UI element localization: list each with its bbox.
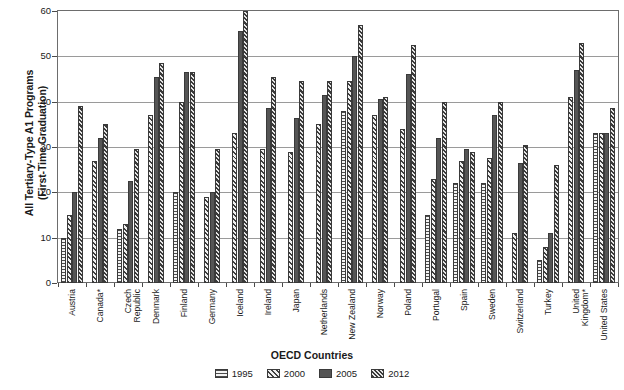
x-axis-tick-mark: [170, 283, 171, 287]
x-axis-category-label: Turkey: [544, 289, 553, 375]
x-axis-category-label: Spain: [460, 289, 469, 375]
bar-2012: [299, 81, 304, 283]
bar-2012: [498, 102, 503, 283]
bar-2000: [543, 247, 548, 283]
bar-2005: [210, 192, 215, 283]
x-axis-tick-mark: [366, 283, 367, 287]
bar-2005: [98, 138, 103, 283]
bar-2000: [512, 233, 517, 283]
y-axis-tick-label: 60: [11, 5, 51, 16]
bar-2005: [518, 163, 523, 283]
x-axis-tick-mark: [478, 283, 479, 287]
x-axis-tick-mark: [142, 283, 143, 287]
bar-2012: [470, 152, 475, 283]
bar-2005: [154, 77, 159, 283]
bar-2005: [322, 95, 327, 283]
y-axis-tick-label: 40: [11, 96, 51, 107]
x-axis-tick-mark: [226, 283, 227, 287]
x-axis-category-label: Finland: [180, 289, 189, 375]
y-axis-tick-label: 0: [11, 277, 51, 288]
bar-1995: [453, 183, 458, 283]
x-axis-category-label: Iceland: [236, 289, 245, 375]
bar-2000: [179, 102, 184, 283]
bar-group: [226, 11, 254, 283]
bar-2005: [548, 233, 553, 283]
y-axis-tick-mark: [52, 238, 57, 239]
x-axis-category-label: Poland: [404, 289, 413, 375]
bar-2012: [442, 102, 447, 283]
bar-2012: [411, 45, 416, 283]
bar-group: [450, 11, 478, 283]
bar-group: [422, 11, 450, 283]
bar-group: [310, 11, 338, 283]
bar-2005: [128, 181, 133, 283]
bar-2005: [378, 99, 383, 283]
bar-chart-figure: All Tertiary-Type A1 Programs (First-Tim…: [0, 0, 624, 390]
legend-label: 1995: [232, 368, 253, 379]
bar-2005: [406, 74, 411, 283]
bar-2005: [492, 115, 497, 283]
bar-2005: [464, 149, 469, 283]
x-axis-category-label: Japan: [292, 289, 301, 375]
bar-1995: [117, 229, 122, 283]
bar-2012: [190, 72, 195, 283]
y-axis-tick-mark: [52, 11, 57, 12]
bar-2012: [523, 145, 528, 283]
x-axis-title: OECD Countries: [0, 349, 624, 361]
bar-2005: [72, 192, 77, 283]
x-axis-tick-mark: [590, 283, 591, 287]
bar-2000: [431, 179, 436, 283]
bar-group: [562, 11, 590, 283]
x-axis-category-label: Czech Republic: [124, 289, 143, 375]
bar-2005: [574, 70, 579, 283]
bar-2000: [67, 215, 72, 283]
y-axis-tick-mark: [52, 147, 57, 148]
x-axis-category-label: United States: [600, 289, 609, 375]
bar-2000: [288, 152, 293, 283]
legend-item-2005: 2005: [319, 368, 357, 379]
x-axis-tick-mark: [254, 283, 255, 287]
y-axis-tick-mark: [52, 192, 57, 193]
bar-2000: [204, 197, 209, 283]
x-axis-category-label: Norway: [376, 289, 385, 375]
y-axis-tick-mark: [52, 56, 57, 57]
bar-2012: [271, 77, 276, 283]
x-axis-category-label: Portugal: [432, 289, 441, 375]
x-axis-tick-mark: [422, 283, 423, 287]
bar-group: [254, 11, 282, 283]
bar-2012: [78, 106, 83, 283]
x-axis-tick-mark: [450, 283, 451, 287]
x-axis-category-label: Netherlands: [320, 289, 329, 375]
bar-2012: [579, 43, 584, 283]
x-axis-tick-mark: [562, 283, 563, 287]
legend-item-2012: 2012: [371, 368, 409, 379]
bar-group: [394, 11, 422, 283]
x-axis-category-label: Canada*: [96, 289, 105, 375]
bar-2012: [159, 63, 164, 283]
bar-1995: [593, 133, 598, 283]
bar-group: [114, 11, 142, 283]
bar-2005: [238, 31, 243, 283]
bar-2000: [487, 158, 492, 283]
bar-2000: [148, 115, 153, 283]
x-axis-tick-mark: [534, 283, 535, 287]
bar-2012: [243, 11, 248, 283]
bar-group: [338, 11, 366, 283]
bar-2005: [436, 138, 441, 283]
legend-item-1995: 1995: [215, 368, 253, 379]
x-axis-category-label: Switzerland: [516, 289, 525, 375]
y-axis-tick-mark: [52, 102, 57, 103]
legend-label: 2000: [284, 368, 305, 379]
bar-1995: [341, 111, 346, 283]
bar-group: [534, 11, 562, 283]
bar-2000: [123, 224, 128, 283]
bar-group: [282, 11, 310, 283]
chart-legend: 1995200020052012: [0, 368, 624, 379]
x-axis-category-label: Denmark: [152, 289, 161, 375]
bar-2000: [599, 133, 604, 283]
x-axis-category-label: United Kingdom*: [572, 289, 591, 375]
bar-group: [86, 11, 114, 283]
bar-2000: [372, 115, 377, 283]
bar-1995: [481, 183, 486, 283]
bar-2005: [604, 133, 609, 283]
